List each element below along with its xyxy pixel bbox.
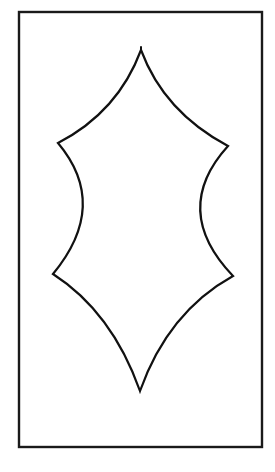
template-canvas [0, 0, 275, 472]
holly-leaf-outline [53, 50, 233, 391]
